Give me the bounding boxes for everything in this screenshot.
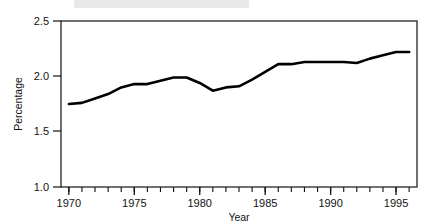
- x-axis-major-ticks: [69, 187, 396, 195]
- x-tick-label-1980: 1980: [187, 197, 211, 209]
- x-tick-label-1995: 1995: [384, 197, 408, 209]
- y-tick-label-2-0: 2.0: [34, 70, 49, 82]
- x-axis-title: Year: [228, 211, 250, 223]
- plot-frame: [61, 21, 417, 187]
- x-tick-label-1990: 1990: [318, 197, 342, 209]
- data-series-line: [69, 52, 409, 104]
- y-tick-label-2-5: 2.5: [34, 15, 49, 27]
- chart-figure: 2.5 2.0 1.5 1.0 Percentage 1970197519801…: [0, 0, 433, 224]
- x-tick-label-1975: 1975: [122, 197, 146, 209]
- y-axis-title: Percentage: [12, 77, 24, 131]
- x-tick-label-1970: 1970: [57, 197, 81, 209]
- x-axis-minor-ticks: [69, 187, 409, 192]
- y-axis-ticks: [53, 21, 61, 187]
- line-chart: 2.5 2.0 1.5 1.0 Percentage 1970197519801…: [0, 0, 433, 224]
- y-tick-label-1-5: 1.5: [34, 125, 49, 137]
- x-axis-tick-labels: 197019751980198519901995: [57, 197, 409, 209]
- x-tick-label-1985: 1985: [253, 197, 277, 209]
- y-tick-label-1-0: 1.0: [34, 181, 49, 193]
